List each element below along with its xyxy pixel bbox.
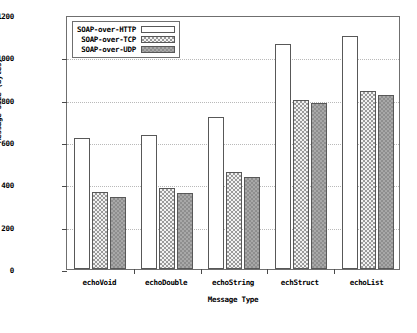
- legend-item: SOAP-over-HTTP: [77, 24, 175, 34]
- bar-echStruct-SOAP-over-HTTP: [275, 44, 291, 269]
- plot-area: SOAP-over-HTTP SOAP-over-TCP SOAP-over-U…: [66, 16, 400, 270]
- y-tick: [62, 271, 67, 272]
- x-tick-label: echoDouble: [145, 278, 187, 287]
- legend-swatch-http: [141, 26, 175, 33]
- y-tick-label: 600: [0, 139, 14, 148]
- y-tick-label: 1200: [0, 12, 14, 21]
- figure-caption: [3, 322, 183, 332]
- y-tick-label: 400: [0, 181, 14, 190]
- legend-swatch-udp: [141, 46, 175, 53]
- y-tick-label: 0: [0, 266, 14, 275]
- legend-item: SOAP-over-UDP: [77, 44, 175, 54]
- x-tick: [134, 269, 135, 274]
- bar-echoVoid-SOAP-over-UDP: [110, 197, 126, 269]
- bar-echoVoid-SOAP-over-TCP: [92, 192, 108, 269]
- y-tick-label: 1000: [0, 54, 14, 63]
- x-axis-title: Message Type: [208, 295, 259, 304]
- chart-figure: Message Size (bytes) Message Type SOAP-o…: [0, 0, 417, 333]
- bar-echStruct-SOAP-over-TCP: [293, 100, 309, 269]
- bar-echoDouble-SOAP-over-HTTP: [141, 135, 157, 269]
- legend-label-http: SOAP-over-HTTP: [77, 25, 136, 34]
- x-tick: [201, 269, 202, 274]
- bar-echoVoid-SOAP-over-HTTP: [74, 138, 90, 269]
- x-tick-label: echoString: [212, 278, 254, 287]
- legend-swatch-tcp: [141, 36, 175, 43]
- y-tick-label: 200: [0, 223, 14, 232]
- x-tick-label: echStruct: [281, 278, 319, 287]
- y-tick: [62, 186, 67, 187]
- y-tick: [62, 59, 67, 60]
- legend-label-tcp: SOAP-over-TCP: [81, 35, 136, 44]
- bar-echoString-SOAP-over-UDP: [244, 177, 260, 269]
- bar-echoList-SOAP-over-UDP: [378, 95, 394, 269]
- bar-echoList-SOAP-over-TCP: [360, 91, 376, 269]
- x-tick-label: echoVoid: [83, 278, 117, 287]
- bar-echStruct-SOAP-over-UDP: [311, 103, 327, 269]
- bar-echoList-SOAP-over-HTTP: [342, 36, 358, 269]
- x-tick: [334, 269, 335, 274]
- y-tick: [62, 229, 67, 230]
- legend-label-udp: SOAP-over-UDP: [81, 45, 136, 54]
- y-tick-label: 800: [0, 96, 14, 105]
- x-tick-label: echoList: [350, 278, 384, 287]
- y-tick: [62, 102, 67, 103]
- legend: SOAP-over-HTTP SOAP-over-TCP SOAP-over-U…: [72, 21, 180, 58]
- legend-item: SOAP-over-TCP: [77, 34, 175, 44]
- bar-echoDouble-SOAP-over-TCP: [159, 188, 175, 269]
- bar-echoString-SOAP-over-HTTP: [208, 117, 224, 269]
- bar-echoDouble-SOAP-over-UDP: [177, 193, 193, 269]
- x-tick: [267, 269, 268, 274]
- bar-echoString-SOAP-over-TCP: [226, 172, 242, 269]
- y-tick: [62, 144, 67, 145]
